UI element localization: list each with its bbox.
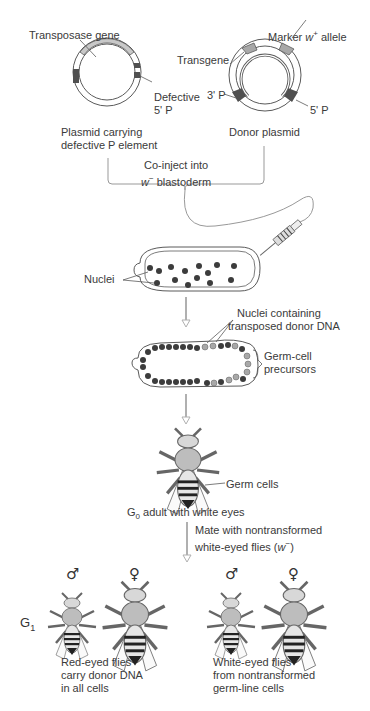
helper-plasmid (73, 38, 152, 106)
g0-caption: G0 adult with white eyes (127, 506, 245, 523)
white-eyed-caption-line3: germ-line cells (213, 682, 284, 695)
male-symbol-right: ♂ (225, 565, 238, 583)
red-eyed-caption-line3: in all cells (61, 682, 109, 695)
transposed-nuclei-label-line1: Nuclei containing (237, 307, 321, 320)
g1-generation-label: G1 (20, 615, 35, 633)
mate-label-line2: white-eyed flies (w−) (195, 537, 294, 554)
defective-5p-label: 5' P (154, 104, 173, 117)
co-inject-label-line1: Co-inject into (144, 159, 208, 172)
germ-cells-label: Germ cells (226, 478, 279, 491)
co-inject-label-line2: w− blastoderm (141, 172, 211, 189)
red-eyed-caption-line2: carry donor DNA (61, 669, 143, 682)
transposase-gene-label: Transposase gene (29, 29, 120, 42)
mate-label-line1: Mate with nontransformed (195, 524, 322, 537)
white-eyed-caption-line1: White-eyed flies (213, 656, 291, 669)
red-eyed-caption-line1: Red-eyed flies (61, 656, 131, 669)
white-eyed-caption-line2: from nontransformed (213, 669, 315, 682)
donor-5p-label: 5' P (310, 104, 329, 117)
male-symbol-left: ♂ (66, 565, 79, 583)
helper-caption-line1: Plasmid carrying (61, 126, 142, 139)
g0-fly (157, 428, 225, 514)
defective-p-label: Defective (154, 91, 200, 104)
g1-red-eyed-male-fly (48, 593, 96, 659)
nuclei-label: Nuclei (84, 273, 115, 286)
marker-allele-label: Marker w+ allele (268, 27, 347, 44)
transgene-label: Transgene (177, 54, 229, 67)
donor-caption: Donor plasmid (229, 126, 300, 139)
donor-3p-label: 3' P (207, 89, 226, 102)
germ-cell-precursors-label-line1: Germ-cell (264, 350, 312, 363)
female-symbol-left: ♀ (129, 565, 140, 583)
female-symbol-right: ♀ (288, 565, 299, 583)
transposed-nuclei-label-line2: transposed donor DNA (228, 320, 340, 333)
g1-white-eyed-male-fly (207, 593, 255, 659)
blastoderm-embryo (123, 247, 260, 291)
helper-caption-line2: defective P element (61, 139, 157, 152)
syringe (258, 219, 303, 259)
germ-cell-precursors-label-line2: precursors (264, 363, 316, 376)
